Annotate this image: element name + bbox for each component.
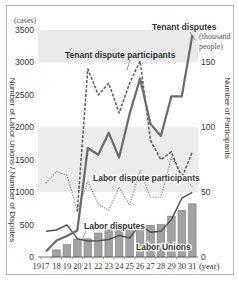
bar-labor-unions-1928 <box>157 225 165 257</box>
right-axis-ticks: 050100150 <box>201 57 215 262</box>
x-tick-label: 21 <box>84 261 93 271</box>
bar-labor-unions-1922 <box>94 233 102 257</box>
bar-labor-unions-1918 <box>53 250 61 257</box>
left-axis-unit: (cases) <box>14 16 37 25</box>
x-tick-label: 20 <box>73 261 82 271</box>
x-tick-label: 27 <box>146 261 155 271</box>
x-tick-label: 26 <box>136 261 145 271</box>
x-tick-label: 23 <box>104 261 113 271</box>
left-axis-title: Number of Labor Unions / Number of Dispu… <box>8 78 17 243</box>
right-tick-label: 150 <box>201 57 215 67</box>
bar-labor-unions-1923 <box>105 230 113 257</box>
x-tick-label: 19 <box>63 261 72 271</box>
bar-labor-unions-1924 <box>115 227 123 257</box>
x-tick-label: 1917 <box>33 261 50 271</box>
bar-labor-unions-1919 <box>63 245 71 257</box>
right-tick-label: 50 <box>201 187 211 197</box>
x-tick-label: 29 <box>167 261 176 271</box>
label-tenant-disputes: Tenant disputes <box>152 22 217 32</box>
x-tick-label: 22 <box>94 261 103 271</box>
right-axis-title: Number of Participants <box>223 77 232 158</box>
x-tick-label: 18 <box>52 261 61 271</box>
left-tick-label: 3500 <box>15 25 34 35</box>
left-tick-label: 3000 <box>15 57 34 67</box>
x-axis-unit: (year) <box>199 261 219 271</box>
x-tick-label: 30 <box>178 261 187 271</box>
right-axis-unit-line2: people) <box>199 42 223 51</box>
left-tick-label: 500 <box>20 220 34 230</box>
chart-canvas: 0500100015002000250030003500 050100150 1… <box>0 0 238 282</box>
x-tick-label: 28 <box>157 261 166 271</box>
label-labor-disputes: Labor disputes <box>84 221 145 231</box>
label-labor-unions: Labor Unions <box>136 242 191 252</box>
right-axis-unit-line1: (thousand <box>199 32 231 41</box>
right-tick-label: 100 <box>201 122 215 132</box>
x-tick-label: 25 <box>125 261 134 271</box>
bar-labor-unions-1925 <box>126 229 134 257</box>
x-tick-label: 31 <box>188 261 197 271</box>
label-tenant-dispute-participants: Tenant dispute participants <box>65 50 176 60</box>
label-labor-dispute-participants: Labor dispute participants <box>93 173 200 183</box>
bar-labor-unions-1920 <box>74 239 82 257</box>
x-tick-label: 24 <box>115 261 124 271</box>
x-axis-ticks: 19171819202122232425262728293031 <box>33 261 197 271</box>
